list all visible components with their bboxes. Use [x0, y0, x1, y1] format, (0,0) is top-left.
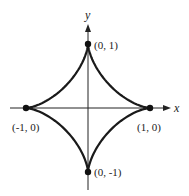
x-axis-arrow-icon	[163, 105, 171, 111]
point-top	[85, 41, 91, 47]
point-label-right: (1, 0)	[137, 121, 161, 134]
y-axis-arrow-icon	[85, 24, 91, 32]
point-right	[147, 105, 153, 111]
point-label-left: (-1, 0)	[12, 121, 40, 134]
point-label-top: (0, 1)	[94, 39, 118, 52]
x-axis-label: x	[173, 101, 180, 115]
y-axis-label: y	[84, 8, 91, 22]
point-bottom	[85, 169, 91, 175]
point-label-bottom: (0, -1)	[94, 166, 122, 179]
astroid-diagram: y x (0, 1) (-1, 0) (1, 0) (0, -1)	[0, 0, 189, 196]
point-left	[23, 105, 29, 111]
